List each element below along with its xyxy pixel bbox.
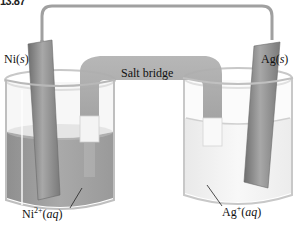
wire bbox=[42, 6, 272, 42]
ag-aq-label: Ag+(aq) bbox=[222, 204, 261, 220]
right-solution bbox=[185, 118, 291, 202]
right-bridge-plug bbox=[203, 118, 222, 146]
left-bridge-plug bbox=[80, 116, 99, 142]
salt-bridge-label: Salt bridge bbox=[121, 66, 173, 81]
galvanic-cell-diagram bbox=[0, 0, 294, 225]
ag-s-label: Ag(s) bbox=[261, 52, 288, 67]
ni-aq-label: Ni2+(aq) bbox=[22, 206, 63, 222]
ni-s-label: Ni(s) bbox=[4, 52, 29, 67]
